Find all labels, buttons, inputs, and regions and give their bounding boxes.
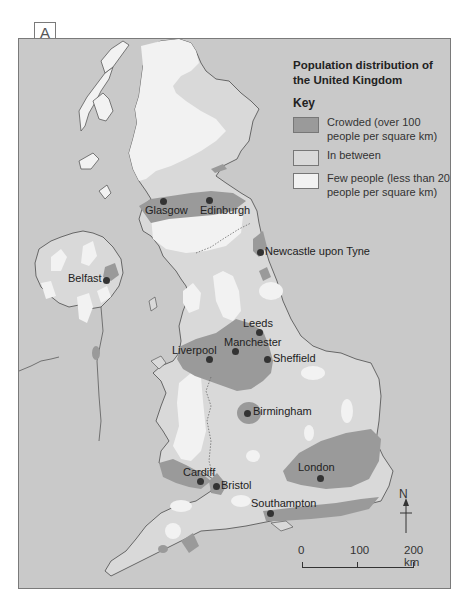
few-patch-yorkwolds — [301, 366, 325, 380]
scale-mid-tick — [357, 562, 358, 567]
legend-item-in-between: In between — [293, 148, 453, 166]
few-patch-lincs — [341, 399, 353, 423]
few-patch-cotswold — [246, 450, 260, 462]
city-label-cardiff: Cardiff — [183, 466, 215, 478]
city-dot-edinburgh — [206, 197, 213, 204]
ireland-border — [97, 307, 103, 441]
legend-label-in-between: In between — [327, 148, 381, 162]
scale-line — [302, 562, 414, 568]
city-dot-bristol — [213, 483, 220, 490]
city-label-bristol: Bristol — [221, 479, 252, 491]
cornwall-crowded — [158, 545, 168, 553]
few-patch-devon2 — [165, 523, 181, 539]
city-dot-sheffield — [264, 356, 271, 363]
isle-of-man — [149, 297, 157, 311]
scale-tick-0: 0 — [298, 544, 304, 556]
swatch-few-people — [293, 173, 319, 189]
legend-title: Population distribution of the United Ki… — [293, 58, 453, 88]
legend-item-crowded: Crowded (over 100 people per square km) — [293, 115, 453, 143]
city-label-southampton: Southampton — [251, 497, 316, 509]
dublin-crowded — [92, 346, 100, 360]
scale-bar: 0 100 200 km — [296, 544, 436, 574]
legend-label-few-people: Few people (less than 20 people per squa… — [327, 171, 453, 199]
city-label-london: London — [298, 461, 335, 473]
city-dot-birmingham — [244, 410, 251, 417]
city-label-manchester: Manchester — [224, 336, 281, 348]
north-label: N — [399, 487, 408, 501]
islay-island — [99, 185, 111, 199]
few-patch-devon1 — [170, 500, 192, 512]
legend-key-heading: Key — [293, 96, 453, 110]
swatch-in-between — [293, 150, 319, 166]
few-patch-eastmidlands — [304, 425, 314, 441]
city-dot-southampton — [267, 510, 274, 517]
city-label-liverpool: Liverpool — [172, 344, 217, 356]
legend-item-few-people: Few people (less than 20 people per squa… — [293, 171, 453, 199]
city-label-glasgow: Glasgow — [145, 204, 188, 216]
city-label-leeds: Leeds — [243, 317, 273, 329]
legend: Population distribution of the United Ki… — [293, 58, 453, 199]
legend-label-crowded: Crowded (over 100 people per square km) — [327, 115, 453, 143]
city-dot-belfast — [103, 277, 110, 284]
city-dot-london — [317, 475, 324, 482]
city-label-edinburgh: Edinburgh — [200, 204, 250, 216]
city-dot-manchester — [232, 348, 239, 355]
north-arrow: N — [395, 487, 415, 542]
city-label-birmingham: Birmingham — [253, 405, 312, 417]
city-dot-liverpool — [206, 356, 213, 363]
city-dot-leeds — [256, 329, 263, 336]
city-dot-newcastle — [257, 249, 264, 256]
ireland-west-coast — [19, 357, 59, 371]
city-dot-cardiff — [197, 478, 204, 485]
city-label-newcastle: Newcastle upon Tyne — [265, 245, 370, 257]
city-label-sheffield: Sheffield — [273, 352, 316, 364]
swatch-crowded — [293, 117, 319, 133]
scale-tick-100: 100 — [350, 544, 369, 556]
isle-of-wight — [271, 521, 293, 531]
few-patch-northumb — [259, 282, 283, 300]
western-isles-north — [101, 41, 129, 73]
city-label-belfast: Belfast — [68, 272, 102, 284]
few-patch-salisbury — [231, 495, 251, 507]
mull-island — [79, 153, 99, 169]
